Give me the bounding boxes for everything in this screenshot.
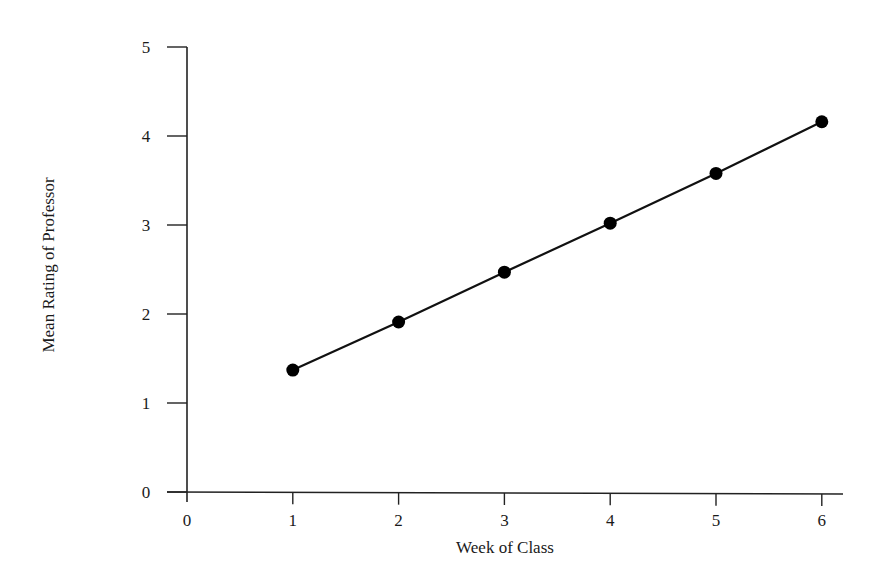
x-tick-label: 0 — [183, 511, 192, 530]
x-axis-label: Week of Class — [456, 538, 554, 557]
y-tick-label: 5 — [142, 38, 151, 57]
x-axis-ticks: 0123456 — [183, 492, 826, 530]
y-tick-label: 3 — [142, 216, 151, 235]
series-line — [293, 122, 822, 370]
x-tick-label: 5 — [712, 511, 721, 530]
line-chart: 0123456 012345 Week of Class Mean Rating… — [0, 0, 882, 584]
x-tick-label: 4 — [606, 511, 615, 530]
y-axis-label: Mean Rating of Professor — [39, 177, 58, 353]
x-tick-label: 1 — [289, 511, 298, 530]
data-point-marker — [286, 364, 299, 377]
x-tick-label: 3 — [500, 511, 509, 530]
y-tick-label: 0 — [142, 483, 151, 502]
y-tick-label: 4 — [142, 127, 151, 146]
data-point-marker — [498, 266, 511, 279]
y-axis-ticks: 012345 — [142, 38, 187, 502]
data-point-marker — [392, 316, 405, 329]
data-point-marker — [815, 115, 828, 128]
data-point-marker — [710, 167, 723, 180]
x-tick-label: 2 — [394, 511, 403, 530]
data-point-marker — [604, 217, 617, 230]
y-tick-label: 2 — [142, 305, 151, 324]
x-tick-label: 6 — [818, 511, 827, 530]
data-series — [286, 115, 828, 376]
y-tick-label: 1 — [142, 394, 151, 413]
